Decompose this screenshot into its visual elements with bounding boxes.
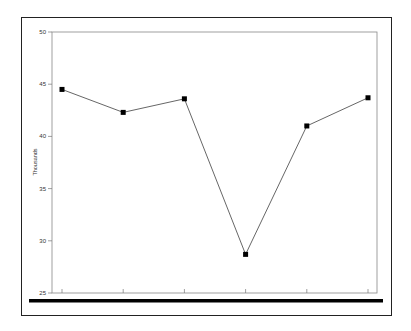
data-point-marker: [60, 87, 65, 92]
y-tick-label: 45: [39, 81, 46, 87]
data-point-marker: [182, 96, 187, 101]
plot-area: [52, 32, 377, 293]
series-line: [62, 89, 368, 254]
baseline-bar: [29, 299, 383, 303]
y-tick-label: 35: [39, 186, 46, 192]
x-axis: [62, 289, 368, 293]
y-tick-label: 50: [39, 29, 46, 35]
y-tick-label: 30: [39, 238, 46, 244]
data-point-marker: [243, 252, 248, 257]
series-markers: [60, 87, 371, 257]
y-tick-label: 40: [39, 133, 46, 139]
y-tick-label: 25: [39, 290, 46, 296]
data-point-marker: [304, 123, 309, 128]
y-axis-label: Thousands: [32, 148, 38, 175]
data-point-marker: [121, 110, 126, 115]
data-point-marker: [366, 95, 371, 100]
line-chart: 253035404550 Thousands: [0, 0, 411, 331]
y-axis: 253035404550: [39, 29, 52, 296]
